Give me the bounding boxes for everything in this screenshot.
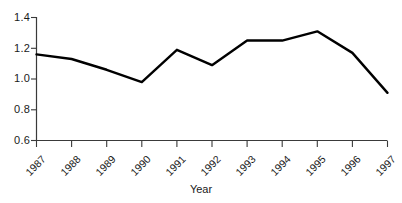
y-tick-label-1-2: 1.2	[0, 43, 30, 54]
x-tick-marks	[37, 141, 388, 148]
y-tick-label-0-8: 0.8	[0, 104, 30, 115]
data-series-line	[37, 31, 388, 92]
line-chart-figure: 1.4 1.2 1.0 0.8 0.6 1987 1988 1989 1990 …	[0, 0, 402, 203]
y-tick-label-1-0: 1.0	[0, 73, 30, 84]
y-tick-label-0-6: 0.6	[0, 135, 30, 146]
y-tick-label-1-4: 1.4	[0, 12, 30, 23]
y-tick-marks	[31, 18, 37, 141]
x-axis-title: Year	[0, 183, 402, 195]
